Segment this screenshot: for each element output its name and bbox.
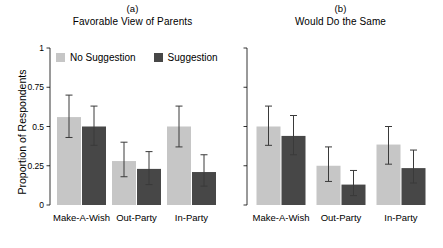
y-tick-label: 0 (39, 200, 44, 210)
panel-a: (a) Favorable View of Parents Proportion… (0, 0, 221, 248)
figure-bar-chart-panels: (a) Favorable View of Parents Proportion… (0, 0, 443, 248)
panel-a-plot: 00.250.50.751Make-A-WishOut-PartyIn-Part… (0, 0, 221, 248)
y-tick-label: 0.75 (27, 82, 44, 92)
x-category-label: Out-Party (116, 212, 157, 223)
y-tick-label: 0.25 (27, 161, 44, 171)
panel-b: (b) Would Do the Same Make-A-WishOut-Par… (221, 0, 442, 248)
x-category-label: In-Party (384, 212, 418, 223)
x-category-label: Out-Party (321, 212, 362, 223)
x-category-label: In-Party (175, 212, 209, 223)
y-tick-label: 1 (39, 43, 44, 53)
x-category-label: Make-A-Wish (252, 212, 309, 223)
panel-b-plot: Make-A-WishOut-PartyIn-Party (221, 0, 442, 248)
y-tick-label: 0.5 (32, 122, 44, 132)
x-category-label: Make-A-Wish (53, 212, 110, 223)
